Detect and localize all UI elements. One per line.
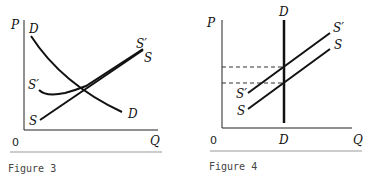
figure-3-q-axis-label: Q [150, 134, 160, 148]
figure-4-q-axis-label: Q [353, 133, 363, 147]
figure-3-supply-label-left: S [29, 114, 37, 128]
figures-canvas: P D D S′ S S′ S 0 Q Figure 3 P D S′ S S′… [0, 0, 366, 181]
figure-4-p-axis-label: P [206, 16, 216, 30]
figure-3: P D D S′ S S′ S 0 Q Figure 3 [8, 18, 162, 174]
figure-4: P D S′ S S′ S 0 D Q Figure 4 [206, 5, 363, 172]
figure-3-supply-label-right: S [144, 51, 152, 65]
figure-4-supply-curve [248, 49, 330, 109]
figure-4-caption: Figure 4 [209, 161, 257, 172]
figure-4-shifted-supply-label-right: S′ [333, 21, 344, 35]
figure-4-supply-label-right: S [334, 38, 342, 52]
figure-3-shifted-supply-curve [39, 49, 143, 94]
figure-3-caption: Figure 3 [8, 163, 56, 174]
figure-3-demand-label-bottom: D [127, 107, 138, 121]
figure-4-supply-label-left: S [237, 104, 245, 118]
figure-3-origin-label: 0 [12, 136, 19, 149]
figure-4-demand-label-bottom: D [278, 133, 289, 147]
figure-4-demand-label-top: D [278, 5, 289, 19]
figure-4-origin-label: 0 [210, 134, 217, 147]
figure-4-shifted-supply-label-left: S′ [236, 87, 247, 101]
figure-4-shifted-supply-curve [248, 33, 330, 93]
figure-3-p-axis-label: P [10, 18, 20, 32]
figure-3-shifted-supply-label-left: S′ [28, 78, 39, 92]
figure-3-shifted-supply-label-right: S′ [136, 37, 147, 51]
figure-3-demand-label-top: D [28, 22, 39, 36]
